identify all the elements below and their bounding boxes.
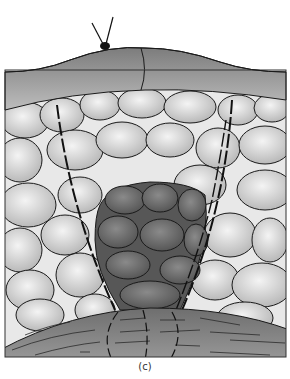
tissue-diagram xyxy=(0,0,290,379)
figure-caption: (c) xyxy=(0,361,290,372)
insect-icon xyxy=(92,17,113,50)
